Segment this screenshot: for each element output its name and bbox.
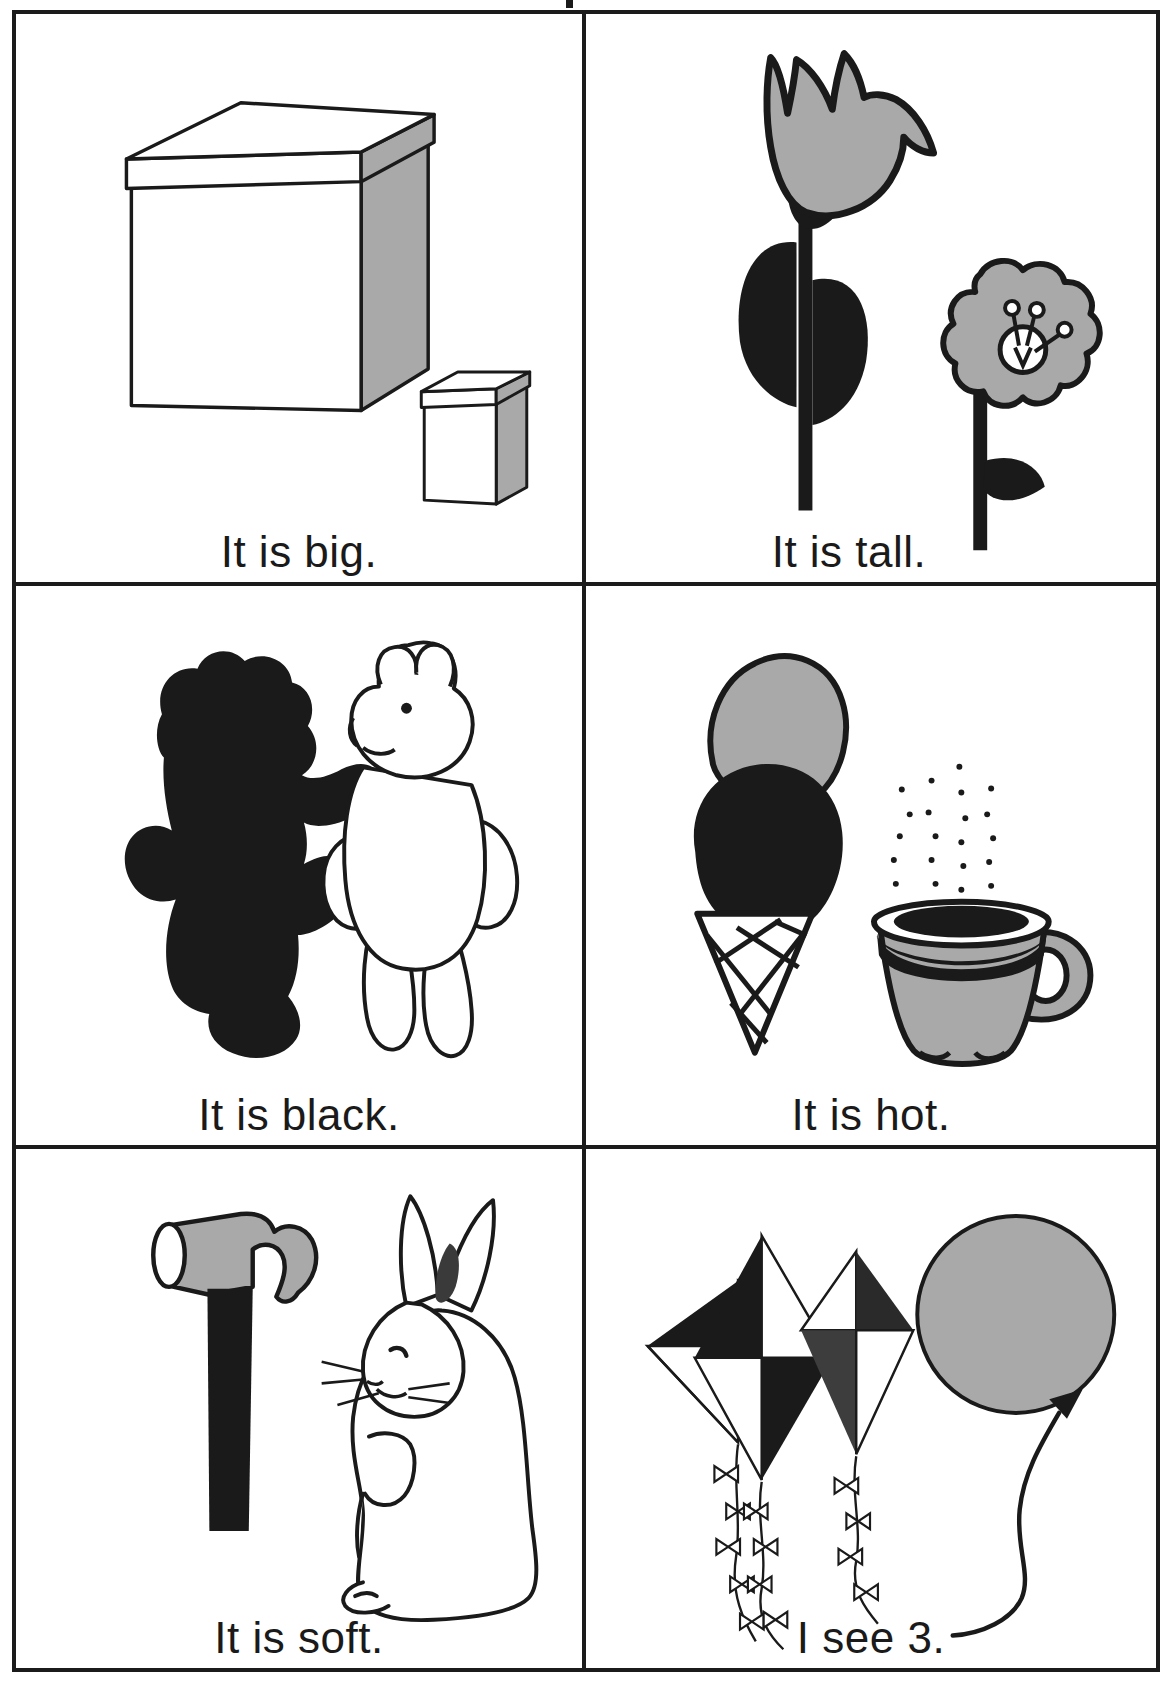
balloon-icon <box>917 1216 1114 1636</box>
short-flower-icon <box>943 261 1100 550</box>
two-bears-illustration <box>16 586 582 1145</box>
card-see-3[interactable]: I see 3. <box>586 1149 1156 1668</box>
ice-cream-cone-icon <box>694 656 846 1053</box>
kites-and-balloon-illustration <box>586 1149 1156 1668</box>
tulip-and-flower-illustration <box>586 14 1156 582</box>
card-tall[interactable]: It is tall. <box>586 14 1156 586</box>
kite-icon <box>695 1236 833 1480</box>
ice-cream-and-cup-illustration <box>586 586 1156 1145</box>
card-hot[interactable]: It is hot. <box>586 586 1156 1149</box>
small-box-icon <box>421 372 529 504</box>
card-big[interactable]: It is big. <box>16 14 586 586</box>
steaming-teacup-icon <box>874 902 1090 1064</box>
hammer-and-rabbit-illustration <box>16 1149 582 1668</box>
worksheet-grid: It is big. <box>12 10 1160 1672</box>
card-black[interactable]: It is black. <box>16 586 586 1149</box>
white-teddy-bear-icon <box>323 642 517 1056</box>
hammer-icon <box>153 1214 316 1531</box>
tulip-icon <box>739 54 934 511</box>
kite-icon <box>801 1251 913 1454</box>
large-box-icon <box>126 103 434 411</box>
two-boxes-illustration <box>16 14 582 582</box>
rabbit-icon <box>343 1196 536 1620</box>
page-top-crop-mark <box>566 0 573 8</box>
steam-dots-icon <box>891 764 996 893</box>
card-soft[interactable]: It is soft. <box>16 1149 586 1668</box>
